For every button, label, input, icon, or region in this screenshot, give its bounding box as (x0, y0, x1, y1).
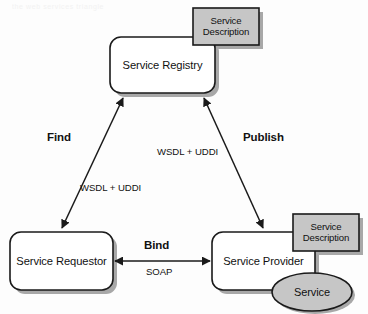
edge-line-publish (204, 98, 263, 228)
node-shape-service-requestor[interactable] (10, 232, 113, 290)
edge-line-find (62, 98, 123, 228)
node-shape-service-ellipse[interactable] (272, 273, 352, 311)
diagram-vector-layer (0, 0, 368, 314)
node-shape-service-description-registry[interactable] (193, 8, 259, 45)
node-shape-service-description-provider[interactable] (293, 214, 359, 251)
diagram-canvas: the web services triangle (0, 0, 368, 314)
